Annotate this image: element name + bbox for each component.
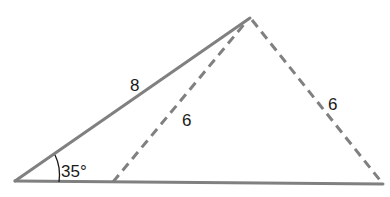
- side-6-inner-dashed: [113, 22, 246, 182]
- side-6-right-dashed: [252, 20, 383, 184]
- label-angle-35: 35°: [61, 162, 87, 181]
- label-side-8: 8: [130, 76, 139, 95]
- label-side-6-right: 6: [328, 95, 337, 114]
- label-side-6-inner: 6: [182, 111, 191, 130]
- triangle-diagram: 8 6 6 35°: [0, 0, 390, 197]
- angle-arc: [55, 155, 60, 182]
- base-solid: [15, 181, 383, 184]
